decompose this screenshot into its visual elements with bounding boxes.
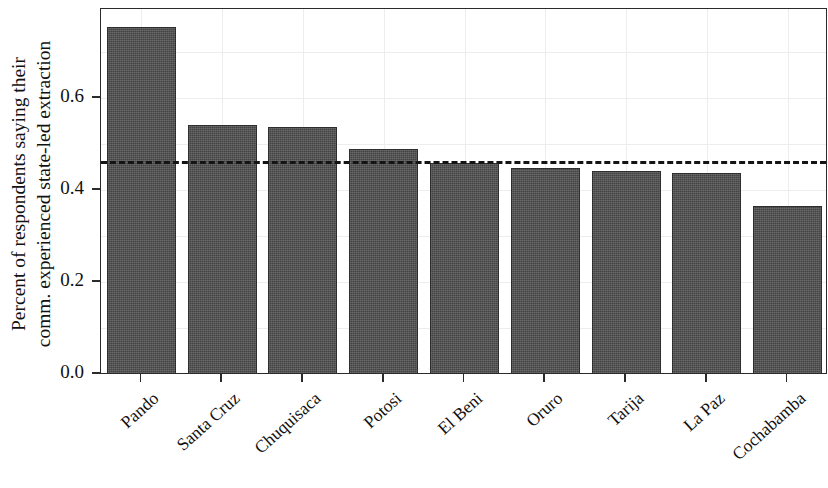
- x-axis-tick-mark: [140, 374, 142, 382]
- x-axis-tick-mark: [786, 374, 788, 382]
- x-axis-tick-mark: [220, 374, 222, 382]
- bar-la-paz: [672, 173, 741, 374]
- bar-potosi: [349, 149, 418, 374]
- x-axis-tick-label-potosi: Potosi: [359, 388, 406, 433]
- y-axis-tick-label: 0.0: [38, 361, 84, 383]
- y-axis-tick-mark: [92, 280, 100, 282]
- gridline-horizontal: [101, 98, 826, 99]
- bar-el-beni: [430, 163, 499, 374]
- y-axis-tick-label: 0.4: [38, 177, 84, 199]
- x-axis-tick-label-el-beni: El Beni: [433, 388, 486, 439]
- y-axis-tick-label: 0.6: [38, 85, 84, 107]
- y-axis-tick-mark: [92, 96, 100, 98]
- y-axis-tick-mark: [92, 372, 100, 374]
- x-axis-tick-label-pando: Pando: [117, 388, 164, 433]
- x-axis-tick-label-oruro: Oruro: [522, 388, 567, 432]
- bar-tarija: [592, 171, 661, 374]
- national-mean-reference-line: [101, 161, 826, 164]
- x-axis-tick-mark: [301, 374, 303, 382]
- bar-pando: [107, 27, 176, 374]
- bar-chart-figure: Percent of respondents saying their comm…: [0, 0, 828, 488]
- x-axis-tick-mark: [382, 374, 384, 382]
- x-axis-tick-label-chuquisaca: Chuquisaca: [250, 388, 325, 458]
- y-axis-tick-label: 0.2: [38, 269, 84, 291]
- x-axis-tick-label-la-paz: La Paz: [679, 388, 729, 436]
- x-axis-tick-mark: [705, 374, 707, 382]
- y-axis-tick-mark: [92, 188, 100, 190]
- x-axis-tick-label-santa-cruz: Santa Cruz: [173, 388, 244, 455]
- gridline-horizontal: [101, 52, 826, 53]
- x-axis-tick-mark: [624, 374, 626, 382]
- x-axis-tick-mark: [463, 374, 465, 382]
- plot-panel: [100, 8, 827, 374]
- bar-cochabamba: [753, 206, 822, 374]
- x-axis-tick-label-tarija: Tarija: [604, 388, 648, 431]
- y-axis-title-line-1: Percent of respondents saying their: [8, 57, 29, 331]
- bar-oruro: [511, 168, 580, 374]
- x-axis-tick-mark: [543, 374, 545, 382]
- x-axis-tick-label-cochabamba: Cochabamba: [728, 388, 810, 465]
